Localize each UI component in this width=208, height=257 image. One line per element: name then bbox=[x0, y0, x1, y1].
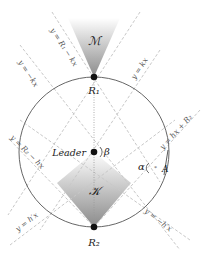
point-leader[interactable] bbox=[91, 149, 98, 156]
eq-hx-plus-r2: y = hx + R₂ bbox=[157, 113, 194, 153]
eq-kx: y = kx bbox=[129, 55, 151, 82]
point-r1[interactable] bbox=[91, 74, 98, 81]
label-r1: R₁ bbox=[87, 85, 100, 96]
diagram-canvas: * ℳ 𝒦 R₁ R₂ Leader β α A y = R₁ − kx y =… bbox=[0, 0, 208, 257]
label-alpha: α bbox=[138, 161, 145, 172]
alpha-mark: * bbox=[154, 165, 157, 171]
label-beta: β bbox=[103, 146, 110, 157]
eq-minus-kx: y = −kx bbox=[16, 57, 41, 89]
label-a: A bbox=[161, 164, 169, 174]
label-m: ℳ bbox=[88, 34, 103, 48]
eq-hprime-x: y = h′x bbox=[13, 210, 40, 234]
eq-r2-minus-hx: y = R₂ − hx bbox=[8, 132, 47, 171]
label-leader: Leader bbox=[51, 147, 87, 158]
point-r2[interactable] bbox=[91, 224, 98, 231]
eq-minus-hprime-x: y = −h′x bbox=[142, 206, 174, 234]
label-r2: R₂ bbox=[87, 237, 100, 248]
